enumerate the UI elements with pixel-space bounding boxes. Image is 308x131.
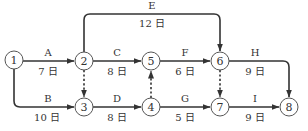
activity-g-name: G [181,93,189,104]
svg-text:3: 3 [81,101,88,114]
activity-i-duration: 9 日 [245,112,265,123]
activity-e-name: E [148,0,155,11]
network-diagram: A 7 日 B 10 日 C 8 日 D 8 日 E 12 日 F 6 日 G … [0,0,308,131]
activity-b-duration: 10 日 [34,112,60,123]
activity-c-duration: 8 日 [107,66,127,77]
activity-f-duration: 6 日 [175,66,195,77]
node-1: 1 [5,51,23,69]
activity-g-duration: 5 日 [175,112,195,123]
activity-d-name: D [113,93,121,104]
node-3: 3 [75,98,93,116]
activity-f-name: F [182,47,189,58]
svg-text:8: 8 [286,101,293,114]
activity-i-name: I [253,93,257,104]
svg-text:6: 6 [217,55,224,68]
svg-text:5: 5 [148,55,155,68]
activity-b-name: B [44,93,51,104]
activity-a-duration: 7 日 [38,66,58,77]
activity-h-name: H [251,47,260,58]
activity-d-duration: 8 日 [107,112,127,123]
svg-text:1: 1 [11,54,18,67]
activity-h-duration: 9 日 [245,66,265,77]
node-2: 2 [75,52,93,70]
activity-e-duration: 12 日 [139,18,165,29]
node-6: 6 [211,52,229,70]
svg-text:2: 2 [81,55,88,68]
node-4: 4 [142,98,160,116]
activity-c-name: C [113,47,121,58]
node-8: 8 [280,98,298,116]
node-5: 5 [142,52,160,70]
svg-text:4: 4 [148,101,155,114]
svg-text:7: 7 [217,101,224,114]
node-7: 7 [211,98,229,116]
activity-a-name: A [43,47,52,58]
